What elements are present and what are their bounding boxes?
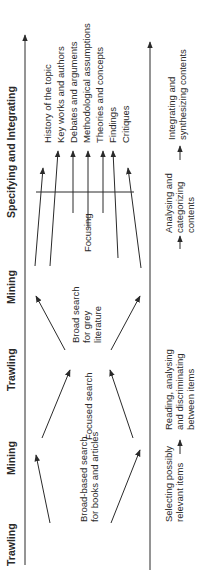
activity-broad-grey: Broad search for grey literature (70, 286, 103, 343)
outcome-methodological: Methodological assumptions (81, 23, 92, 143)
outcome-critiques: Critiques (120, 106, 131, 144)
process-analysing: Analysing and categorizing contents (163, 173, 196, 233)
activity-broad-books: Broad-based search for books and article… (78, 432, 100, 522)
phase-label-trawling-2: Trawling (6, 348, 17, 391)
outcome-theories: Theories and concepts (94, 47, 105, 143)
phase-label-mining-2: Mining (6, 270, 17, 304)
process-reading: Reading, analysing and discriminating be… (163, 349, 196, 430)
phase-label-trawling-1: Trawling (6, 523, 17, 566)
process-integrating: Integrating and synthesizing contents (166, 49, 188, 140)
phase-label-mining-1: Mining (6, 441, 17, 475)
outcome-key-works: Key works and authors (55, 46, 66, 143)
outcome-history: History of the topic (42, 64, 53, 143)
outcome-findings: Findings (107, 107, 118, 143)
outcome-debates: Debates and arguments (68, 42, 79, 143)
phase-label-specifying-integrating: Specifying and Integrating (6, 86, 17, 218)
activity-focusing: Focusing (82, 213, 93, 252)
process-selecting: Selecting possibly relevant items (163, 446, 185, 522)
activity-focused-search: Focused search (83, 372, 94, 440)
literature-review-diagram: Trawling Mining Trawling Mining Specifyi… (0, 0, 213, 588)
